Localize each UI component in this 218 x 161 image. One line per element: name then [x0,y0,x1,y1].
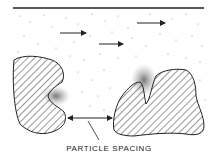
particle-spacing-label: PARTICLE SPACING [0,144,218,153]
right-particle [113,69,204,136]
leader-line [88,121,99,140]
diagram-canvas [0,0,218,161]
particle-spacing-diagram: PARTICLE SPACING [0,0,218,161]
